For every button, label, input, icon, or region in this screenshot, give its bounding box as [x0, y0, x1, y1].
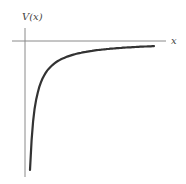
x-axis-label: x — [171, 35, 177, 46]
y-axis-label: V(x) — [22, 11, 43, 22]
potential-curve — [30, 46, 154, 170]
potential-plot: V(x) x — [0, 0, 186, 184]
